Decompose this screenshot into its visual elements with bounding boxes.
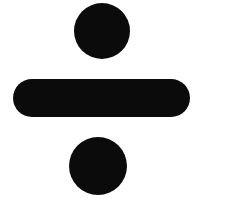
- division-bar: [13, 79, 190, 117]
- division-sign-icon: Division sign (obelus) glyph: a solid do…: [0, 0, 234, 200]
- division-sign-image: Division sign (obelus) glyph: a solid do…: [0, 0, 234, 200]
- division-top-dot: [74, 3, 130, 59]
- division-bottom-dot: [69, 137, 127, 195]
